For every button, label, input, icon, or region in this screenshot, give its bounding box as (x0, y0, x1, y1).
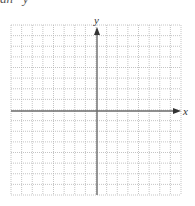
x-axis-label: x (182, 105, 188, 117)
x-axis-arrow-icon (173, 108, 181, 114)
y-axis-label: y (93, 14, 99, 26)
coordinate-grid: x y (0, 0, 195, 206)
y-axis-arrow-icon (94, 27, 100, 35)
grid-lines (11, 25, 181, 195)
